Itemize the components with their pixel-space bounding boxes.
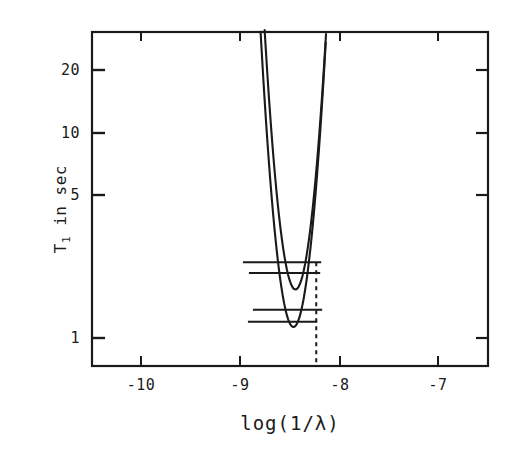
plot-frame <box>92 32 488 366</box>
x-axis-title: log(1/λ) <box>92 412 488 434</box>
x-tick-label-minus-9: -9 <box>230 376 249 394</box>
y-tick-label-20: 20 <box>40 61 80 79</box>
y-axis-title: T1 in sec <box>51 129 73 289</box>
y-axis-title-subscript: 1 <box>60 236 73 243</box>
y-axis-title-symbol: T <box>51 243 70 253</box>
x-tick-label-minus-7: -7 <box>428 376 447 394</box>
y-tick-label-1: 1 <box>40 329 80 347</box>
x-tick-label-minus-8: -8 <box>330 376 349 394</box>
x-tick-label-minus-10: -10 <box>127 376 156 394</box>
y-axis-title-rest: in sec <box>51 165 70 236</box>
figure-container: 20 10 5 1 -10 -9 -8 -7 T1 in sec log(1/λ… <box>0 0 515 456</box>
